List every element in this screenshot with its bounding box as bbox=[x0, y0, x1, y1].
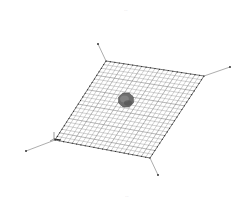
cable-top-right bbox=[204, 67, 230, 76]
mesh-node bbox=[115, 151, 116, 152]
mesh-node bbox=[73, 111, 74, 112]
mesh-node bbox=[67, 142, 68, 143]
mesh-node bbox=[59, 140, 60, 141]
mesh-node bbox=[167, 131, 168, 132]
central-body bbox=[119, 93, 134, 107]
net-mesh bbox=[54, 60, 204, 158]
mesh-node bbox=[80, 100, 81, 101]
mesh-node bbox=[141, 156, 142, 157]
mesh-node bbox=[154, 68, 155, 69]
mesh-node bbox=[128, 153, 129, 154]
mesh-node bbox=[196, 87, 197, 88]
mesh-node bbox=[66, 121, 67, 122]
mesh-node bbox=[190, 73, 191, 74]
mesh-node bbox=[152, 154, 153, 155]
mesh-node bbox=[87, 89, 88, 90]
mesh-node bbox=[59, 132, 60, 133]
mesh-node bbox=[102, 148, 103, 149]
mesh-node bbox=[61, 129, 62, 130]
mesh-node bbox=[98, 148, 99, 149]
mesh-node bbox=[103, 64, 104, 65]
mesh-node bbox=[162, 139, 163, 140]
mesh-node bbox=[199, 83, 200, 84]
mesh-node bbox=[94, 78, 95, 79]
mesh-node bbox=[199, 75, 200, 76]
mesh-node bbox=[80, 144, 81, 145]
mesh-node bbox=[179, 113, 180, 114]
mesh-node bbox=[132, 154, 133, 155]
mesh-node bbox=[194, 90, 195, 91]
mesh-node bbox=[169, 128, 170, 129]
central-body-shadow bbox=[124, 100, 132, 106]
mesh-node bbox=[195, 74, 196, 75]
mesh-node bbox=[96, 75, 97, 76]
mesh-node bbox=[123, 63, 124, 64]
mesh-node bbox=[82, 96, 83, 97]
mesh-node bbox=[172, 71, 173, 72]
cable-bottom-left bbox=[26, 140, 55, 151]
bottom-label: ··· bbox=[125, 195, 129, 199]
anchor-node bbox=[25, 150, 27, 152]
mesh-node bbox=[57, 136, 58, 137]
mesh-node bbox=[137, 65, 138, 66]
mesh-node bbox=[176, 116, 177, 117]
mesh-node bbox=[157, 146, 158, 147]
mesh-line bbox=[76, 108, 172, 125]
mesh-node bbox=[64, 125, 65, 126]
anchor-cables bbox=[25, 43, 231, 176]
mesh-node bbox=[164, 135, 165, 136]
mesh-node bbox=[145, 157, 146, 158]
mesh-node bbox=[89, 86, 90, 87]
anchor-node bbox=[97, 43, 99, 45]
mesh-node bbox=[68, 118, 69, 119]
mesh-node bbox=[172, 124, 173, 125]
mesh-node bbox=[76, 144, 77, 145]
mesh-node bbox=[93, 147, 94, 148]
mesh-node bbox=[101, 68, 102, 69]
mesh-node bbox=[159, 143, 160, 144]
anchor-node bbox=[157, 174, 159, 176]
mesh-node bbox=[75, 107, 76, 108]
mesh-node bbox=[181, 72, 182, 73]
mesh-node bbox=[85, 145, 86, 146]
mesh-node bbox=[201, 79, 202, 80]
mesh-node bbox=[191, 94, 192, 95]
mesh-node bbox=[174, 120, 175, 121]
mesh-node bbox=[124, 153, 125, 154]
mesh-node bbox=[106, 149, 107, 150]
mesh-node bbox=[119, 152, 120, 153]
mesh-node bbox=[132, 65, 133, 66]
mesh-node bbox=[146, 67, 147, 68]
mesh-node bbox=[186, 102, 187, 103]
mesh-node bbox=[110, 61, 111, 62]
mesh-line bbox=[71, 115, 167, 132]
mesh-node bbox=[159, 69, 160, 70]
mesh-diagram bbox=[0, 0, 251, 209]
cable-top-left bbox=[98, 44, 106, 61]
mesh-node bbox=[78, 104, 79, 105]
mesh-node bbox=[111, 150, 112, 151]
mesh-node bbox=[71, 114, 72, 115]
mesh-node bbox=[141, 66, 142, 67]
mesh-node bbox=[72, 143, 73, 144]
mesh-node bbox=[98, 71, 99, 72]
mesh-node bbox=[63, 141, 64, 142]
mesh-node bbox=[184, 105, 185, 106]
mesh-node bbox=[154, 150, 155, 151]
mesh-node bbox=[181, 109, 182, 110]
top-label: ··· bbox=[124, 9, 128, 13]
mesh-node bbox=[177, 71, 178, 72]
mesh-node bbox=[150, 67, 151, 68]
mesh-node bbox=[128, 64, 129, 65]
mesh-node bbox=[189, 98, 190, 99]
mesh-node bbox=[114, 62, 115, 63]
mesh-node bbox=[163, 69, 164, 70]
mesh-node bbox=[136, 155, 137, 156]
mesh-node bbox=[89, 146, 90, 147]
mesh-node bbox=[92, 82, 93, 83]
mesh-node bbox=[168, 70, 169, 71]
mesh-node bbox=[119, 62, 120, 63]
mesh-node bbox=[186, 73, 187, 74]
cable-bottom-right bbox=[150, 158, 158, 175]
mesh-line bbox=[74, 111, 170, 128]
